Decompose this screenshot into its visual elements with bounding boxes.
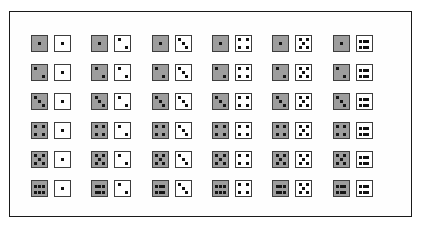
die-pip	[98, 42, 101, 45]
die-pip	[359, 98, 362, 101]
die-face-pips	[34, 96, 45, 107]
die-pip	[336, 133, 339, 136]
die-pip	[98, 191, 101, 194]
die-pip	[215, 154, 218, 157]
die-pip	[299, 67, 302, 70]
die-pip	[246, 154, 249, 157]
die-pip	[343, 185, 346, 188]
plain-die-face-5	[295, 93, 312, 110]
die-pip	[246, 38, 249, 41]
die-face-pips	[94, 96, 105, 107]
die-face-pips	[238, 154, 249, 165]
die-pip	[155, 162, 158, 165]
die-pip	[366, 104, 369, 107]
plain-die-face-5	[295, 122, 312, 139]
die-pip	[306, 67, 309, 70]
die-pip	[159, 191, 162, 194]
die-pip	[95, 162, 98, 165]
die-pip	[223, 185, 226, 188]
die-pip	[299, 38, 302, 41]
dice-pair-3-4	[212, 87, 272, 116]
die-pip	[246, 96, 249, 99]
die-pip	[42, 133, 45, 136]
die-pip	[336, 67, 339, 70]
die-pip	[276, 96, 279, 99]
die-pip	[219, 191, 222, 194]
die-pip	[343, 191, 346, 194]
die-pip	[359, 162, 362, 165]
die-pip	[363, 98, 366, 101]
dice-pair-4-6	[333, 116, 393, 145]
die-pip	[118, 125, 121, 128]
shaded-die-face-4	[31, 122, 48, 139]
die-face-pips	[155, 183, 166, 196]
die-pip	[340, 158, 343, 161]
plain-die-face-4	[235, 35, 252, 52]
dice-pair-4-2	[91, 116, 151, 145]
die-pip	[155, 96, 158, 99]
die-pip	[238, 133, 241, 136]
die-face-pips	[94, 183, 105, 196]
die-pip	[283, 191, 286, 194]
die-pip	[238, 67, 241, 70]
dice-grid	[31, 29, 393, 203]
plain-die-face-4	[235, 64, 252, 81]
die-pip	[366, 46, 369, 49]
die-pip	[336, 191, 339, 194]
die-pip	[34, 96, 37, 99]
die-pip	[162, 133, 165, 136]
die-pip	[102, 104, 105, 107]
die-pip	[34, 154, 37, 157]
die-face-pips	[178, 96, 189, 107]
die-face-pips	[359, 96, 370, 109]
die-pip	[283, 185, 286, 188]
dice-pair-5-1	[31, 145, 91, 174]
die-pip	[95, 125, 98, 128]
die-face-pips	[275, 67, 286, 78]
die-pip	[246, 104, 249, 107]
die-pip	[340, 42, 343, 45]
die-face-pips	[155, 125, 166, 136]
die-face-pips	[215, 96, 226, 107]
die-face-pips	[298, 96, 309, 107]
die-face-pips	[238, 67, 249, 78]
shaded-die-face-1	[333, 35, 350, 52]
plain-die-face-3	[175, 151, 192, 168]
figure-frame	[9, 11, 412, 217]
die-pip	[95, 185, 98, 188]
shaded-die-face-2	[91, 64, 108, 81]
die-pip	[61, 42, 64, 45]
shaded-die-face-3	[212, 93, 229, 110]
die-pip	[238, 104, 241, 107]
die-face-pips	[94, 67, 105, 78]
die-pip	[102, 125, 105, 128]
die-pip	[246, 162, 249, 165]
die-pip	[102, 191, 105, 194]
die-face-pips	[94, 125, 105, 136]
die-pip	[162, 185, 165, 188]
die-pip	[238, 38, 241, 41]
die-face-pips	[57, 125, 68, 136]
plain-die-face-3	[175, 64, 192, 81]
shaded-die-face-2	[31, 64, 48, 81]
plain-die-face-3	[175, 93, 192, 110]
die-face-pips	[155, 154, 166, 165]
dice-pair-6-2	[91, 174, 151, 203]
die-pip	[299, 75, 302, 78]
die-pip	[363, 40, 366, 43]
die-pip	[359, 133, 362, 136]
die-pip	[95, 67, 98, 70]
die-pip	[246, 125, 249, 128]
die-face-pips	[275, 125, 286, 136]
die-pip	[38, 158, 41, 161]
die-face-pips	[215, 154, 226, 165]
shaded-die-face-6	[31, 180, 48, 197]
die-pip	[279, 42, 282, 45]
die-face-pips	[34, 183, 45, 196]
die-pip	[306, 154, 309, 157]
dice-pair-6-4	[212, 174, 272, 203]
die-pip	[359, 104, 362, 107]
die-pip	[223, 133, 226, 136]
die-pip	[118, 96, 121, 99]
dice-pair-2-2	[91, 58, 151, 87]
